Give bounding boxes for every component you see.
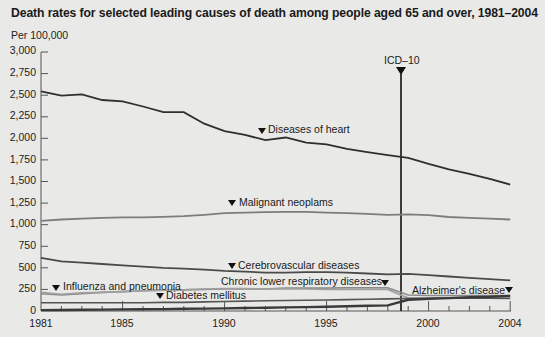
label-chronic-lower-respiratory: Chronic lower respiratory diseases	[221, 275, 382, 287]
cerebro-marker-icon	[228, 263, 236, 269]
flu-marker-icon	[52, 285, 60, 291]
label-diabetes-mellitus: Diabetes mellitus	[166, 289, 246, 301]
label-malignant-neoplams: Malignant neoplams	[239, 196, 333, 208]
clrd-marker-icon	[381, 280, 389, 286]
label-cerebrovascular-diseases: Cerebrovascular diseases	[238, 259, 359, 271]
heart-marker-icon	[258, 128, 266, 134]
line-malignant-neoplams	[41, 212, 510, 221]
diabetes-marker-icon	[156, 293, 164, 299]
label-diseases-of-heart: Diseases of heart	[268, 123, 350, 135]
cancer-marker-icon	[228, 200, 236, 206]
y-ticks	[41, 52, 48, 289]
line-diseases-of-heart	[41, 91, 510, 184]
icd10-marker-icon	[396, 67, 406, 75]
alz-marker-icon	[505, 287, 513, 293]
label-alzheimers-disease: Alzheimer's disease	[412, 284, 505, 296]
label-influenza-pneumonia: Influenza and pneumonia	[63, 280, 181, 292]
